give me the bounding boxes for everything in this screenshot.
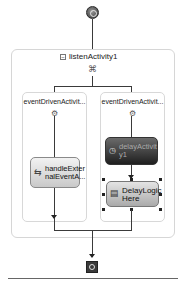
connector-line [54, 218, 55, 230]
connector-line [92, 230, 93, 257]
delay-activity[interactable]: ◷ delayActivit y1 [105, 137, 158, 165]
workflow-start-icon [86, 6, 99, 19]
selection-handle[interactable] [130, 178, 133, 181]
collapse-toggle-icon[interactable]: − [60, 54, 66, 60]
activity-label: handleExter nalEventA... [45, 165, 85, 181]
selection-handle[interactable] [102, 193, 105, 196]
activity-label: DelayLogic Here [122, 187, 162, 203]
handle-external-event-icon: ⇆ [34, 168, 42, 176]
branch-title: eventDrivenActivit... [101, 97, 164, 106]
selection-handle[interactable] [102, 178, 105, 181]
clock-icon: ◷ [109, 147, 116, 155]
code-activity-icon: ▤ [110, 189, 119, 197]
selection-handle[interactable] [159, 208, 162, 211]
event-driven-icon: ⚙ [101, 109, 164, 119]
branch-split-line [54, 86, 132, 87]
connector-line [131, 116, 132, 137]
workflow-stop-icon [86, 261, 98, 273]
connector-line [92, 76, 93, 86]
listen-activity-title: listenActivity1 [69, 52, 117, 61]
branch-title: eventDrivenActivit... [23, 97, 86, 106]
listen-activity-icon: ⌘ [86, 64, 98, 75]
arrow-down-icon [89, 254, 95, 258]
selection-handle[interactable] [159, 178, 162, 181]
connector-line [131, 210, 132, 230]
selection-handle[interactable] [159, 193, 162, 196]
selection-handle[interactable] [102, 208, 105, 211]
branch-merge-line [54, 230, 132, 231]
connector-line [54, 116, 55, 157]
connector-line [92, 19, 93, 49]
delay-logic-activity[interactable]: ▤ DelayLogic Here [106, 181, 159, 207]
handle-external-event-activity[interactable]: ⇆ handleExter nalEventA... [30, 157, 80, 188]
divider [8, 278, 178, 279]
activity-label: delayActivit y1 [119, 143, 157, 159]
listen-activity-header: −listenActivity1 [60, 51, 150, 62]
connector-line [54, 188, 55, 218]
